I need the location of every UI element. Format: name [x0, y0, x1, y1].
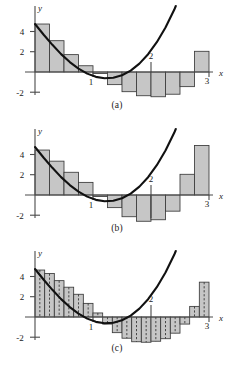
riemann-bar	[151, 72, 166, 97]
riemann-bar	[35, 270, 45, 317]
riemann-bar	[35, 24, 50, 72]
x-ticklabel-1: 1	[89, 77, 94, 87]
bars-a	[35, 24, 209, 97]
x-ticklabel-2: 2	[149, 174, 154, 184]
panel-c-plot: y x 4 2 -2 1 2 3	[0, 245, 234, 355]
riemann-bar	[151, 195, 166, 220]
x-axis-label: x	[218, 313, 223, 323]
y-ticklabel-neg2: -2	[16, 88, 24, 98]
panel-b-caption: (b)	[0, 223, 234, 233]
y-ticklabel-2: 2	[20, 170, 25, 180]
riemann-bar	[137, 72, 152, 96]
panel-c: y x 4 2 -2 1 2 3 (c)	[0, 245, 234, 368]
x-ticklabel-1: 1	[89, 322, 94, 332]
panel-a: y x 4 2 -2 1 2 3 (a)	[0, 0, 234, 123]
y-ticklabel-neg2: -2	[16, 333, 24, 343]
riemann-bar	[64, 172, 79, 195]
y-ticklabel-4: 4	[20, 272, 25, 282]
x-ticklabel-2: 2	[149, 294, 154, 304]
riemann-bar	[195, 145, 210, 194]
panel-b-plot: y x 4 2 -2 1 2 3	[0, 123, 234, 233]
panel-b: y x 4 2 -2 1 2 3 (b)	[0, 123, 234, 246]
y-ticklabel-2: 2	[20, 47, 25, 57]
riemann-sum-figure: y x 4 2 -2 1 2 3 (a) y	[0, 0, 234, 368]
riemann-bar	[166, 72, 181, 94]
x-axis-label: x	[218, 68, 223, 78]
x-ticklabel-3: 3	[205, 76, 210, 86]
y-axis-label: y	[37, 126, 42, 136]
riemann-bar	[166, 195, 181, 211]
riemann-bar	[180, 174, 195, 195]
x-ticklabel-2: 2	[149, 51, 154, 61]
y-axis-label: y	[37, 248, 42, 258]
x-axis-label: x	[218, 191, 223, 201]
y-axis-label: y	[37, 3, 42, 13]
x-ticklabel-3: 3	[205, 199, 210, 209]
riemann-bar	[137, 195, 152, 221]
panel-a-plot: y x 4 2 -2 1 2 3	[0, 0, 234, 110]
x-ticklabel-1: 1	[89, 200, 94, 210]
panel-a-caption: (a)	[0, 100, 234, 110]
y-ticklabel-4: 4	[20, 27, 25, 37]
riemann-bar	[161, 317, 171, 339]
riemann-bar	[195, 51, 210, 72]
x-ticklabel-3: 3	[205, 321, 210, 331]
panel-c-caption: (c)	[0, 343, 234, 353]
bars-b	[35, 145, 209, 221]
y-ticklabel-neg2: -2	[16, 210, 24, 220]
bars-c	[35, 270, 209, 342]
y-ticklabel-4: 4	[20, 150, 25, 160]
riemann-bar	[180, 72, 195, 87]
y-ticklabel-2: 2	[20, 292, 25, 302]
